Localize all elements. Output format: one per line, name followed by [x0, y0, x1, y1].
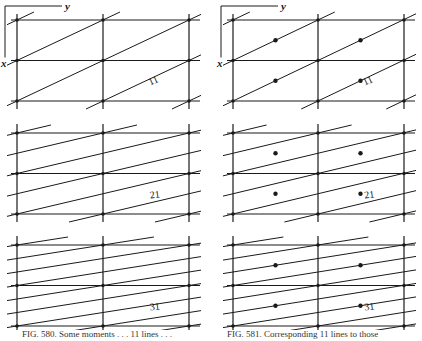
- lattice-node-dot: [316, 59, 320, 63]
- lattice-node-dot: [402, 99, 406, 103]
- lattice-node-dot: [316, 18, 320, 22]
- x-axis-label: x: [216, 57, 223, 69]
- cell-center-dot: [358, 192, 362, 196]
- slanted-lattice-line: [69, 191, 201, 222]
- lattice-node-dot: [15, 18, 19, 22]
- slanted-lattice-line: [223, 243, 416, 274]
- lattice-node-dot: [402, 324, 406, 328]
- x-axis-label: x: [0, 57, 7, 69]
- cell-center-dot: [273, 192, 277, 196]
- cell-center-dot: [273, 38, 277, 42]
- slanted-lattice-line: [7, 125, 51, 135]
- lattice-node-dot: [15, 324, 19, 328]
- lattice-label: 21: [149, 188, 160, 200]
- lattice-node-dot: [402, 212, 406, 216]
- lattice-node-dot: [231, 172, 235, 176]
- cell-center-dot: [358, 304, 362, 308]
- slanted-lattice-line: [386, 95, 416, 109]
- slanted-lattice-line: [172, 95, 201, 109]
- lattice-node-dot: [187, 243, 191, 247]
- lattice-node-dot: [402, 59, 406, 63]
- lattice-node-dot: [231, 212, 235, 216]
- lattice-node-dot: [187, 99, 191, 103]
- lattice-node-dot: [187, 172, 191, 176]
- left-caption: FIG. 580. Some moments . . . 11 lines . …: [22, 329, 172, 339]
- slanted-lattice-line: [7, 130, 201, 176]
- lattice-node-dot: [402, 131, 406, 135]
- slanted-lattice-line: [223, 283, 416, 314]
- slanted-lattice-line: [7, 243, 201, 273]
- lattice-node-dot: [187, 324, 191, 328]
- slanted-lattice-line: [7, 297, 201, 327]
- lattice-node-dot: [231, 99, 235, 103]
- lattice-node-dot: [316, 99, 320, 103]
- lattice-node-dot: [316, 131, 320, 135]
- lattice-node-dot: [15, 212, 19, 216]
- slanted-lattice-line: [223, 297, 416, 328]
- lattice-node-dot: [231, 324, 235, 328]
- lattice-node-dot: [101, 284, 105, 288]
- slanted-lattice-line: [223, 125, 267, 135]
- lattice-node-dot: [15, 172, 19, 176]
- lattice-node-dot: [231, 131, 235, 135]
- slanted-lattice-line: [223, 237, 368, 260]
- lattice-node-dot: [187, 131, 191, 135]
- slanted-lattice-line: [7, 237, 154, 260]
- lattice-node-dot: [316, 324, 320, 328]
- lattice-node-dot: [402, 284, 406, 288]
- lattice-node-dot: [101, 243, 105, 247]
- lattice-node-dot: [231, 59, 235, 63]
- lattice-node-dot: [15, 131, 19, 135]
- slanted-lattice-line: [155, 211, 201, 222]
- slanted-lattice-line: [223, 125, 352, 156]
- lattice-label: 21: [363, 188, 374, 200]
- y-axis-label: y: [63, 0, 70, 12]
- lattice-node-dot: [402, 172, 406, 176]
- lattice-node-dot: [316, 172, 320, 176]
- panels-group: 11yx213111yx2131: [0, 0, 416, 330]
- lattice-node-dot: [231, 18, 235, 22]
- lattice-node-dot: [316, 284, 320, 288]
- slanted-lattice-line: [7, 171, 201, 217]
- lattice-node-dot: [101, 18, 105, 22]
- y-axis-label: y: [279, 0, 286, 12]
- cell-center-dot: [273, 151, 277, 155]
- cell-center-dot: [358, 38, 362, 42]
- lattice-node-dot: [101, 59, 105, 63]
- slanted-lattice-line: [223, 170, 416, 216]
- lattice-node-dot: [15, 99, 19, 103]
- slanted-lattice-line: [7, 284, 201, 314]
- lattice-node-dot: [101, 172, 105, 176]
- slanted-lattice-line: [223, 256, 416, 287]
- axis-indicator: [5, 6, 62, 58]
- slanted-lattice-line: [7, 12, 34, 25]
- slanted-lattice-line: [223, 12, 250, 25]
- lattice-node-dot: [231, 243, 235, 247]
- cell-center-dot: [358, 263, 362, 267]
- lattice-node-dot: [402, 18, 406, 22]
- lattice-node-dot: [187, 212, 191, 216]
- slanted-lattice-line: [7, 257, 201, 287]
- slanted-lattice-line: [7, 125, 137, 156]
- lattice-node-dot: [101, 99, 105, 103]
- slanted-lattice-line: [284, 191, 416, 222]
- lattice-node-dot: [101, 212, 105, 216]
- lattice-node-dot: [101, 324, 105, 328]
- lattice-node-dot: [187, 59, 191, 63]
- slanted-lattice-line: [52, 311, 201, 330]
- lattice-figure: 11yx213111yx2131: [0, 0, 422, 330]
- lattice-label: 31: [363, 300, 374, 312]
- lattice-label: 31: [149, 300, 160, 312]
- slanted-lattice-line: [223, 130, 416, 176]
- lattice-node-dot: [316, 243, 320, 247]
- cell-center-dot: [358, 151, 362, 155]
- lattice-node-dot: [15, 284, 19, 288]
- right-caption: FIG. 581. Corresponding 11 lines to thos…: [227, 329, 378, 339]
- cell-center-dot: [273, 263, 277, 267]
- axis-indicator: [221, 6, 278, 58]
- lattice-node-dot: [101, 131, 105, 135]
- lattice-node-dot: [187, 284, 191, 288]
- lattice-node-dot: [15, 243, 19, 247]
- cell-center-dot: [273, 304, 277, 308]
- lattice-node-dot: [402, 243, 406, 247]
